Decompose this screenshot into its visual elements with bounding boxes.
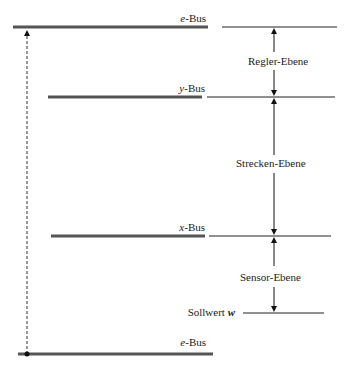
feedback-origin-dot: [25, 352, 30, 357]
strecken-ebene-label: Strecken-Ebene: [236, 158, 306, 169]
regler-ebene-label: Regler-Ebene: [248, 56, 308, 67]
x-bus-label: x-Bus: [179, 222, 205, 233]
setpoint-label: Sollwert w: [188, 307, 235, 318]
y-bus-label: y-Bus: [179, 83, 205, 94]
sensor-ebene-label: Sensor-Ebene: [240, 272, 301, 283]
e-bus-bottom-label: e-Bus: [180, 337, 206, 348]
e-bus-top-label: e-Bus: [180, 13, 206, 24]
